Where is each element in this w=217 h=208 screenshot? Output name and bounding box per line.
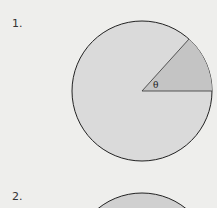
figure-1-circle xyxy=(72,21,212,161)
theta-label: θ xyxy=(153,80,158,90)
circle-diagrams: θ xyxy=(0,0,217,208)
figure-2-circle xyxy=(72,193,212,208)
